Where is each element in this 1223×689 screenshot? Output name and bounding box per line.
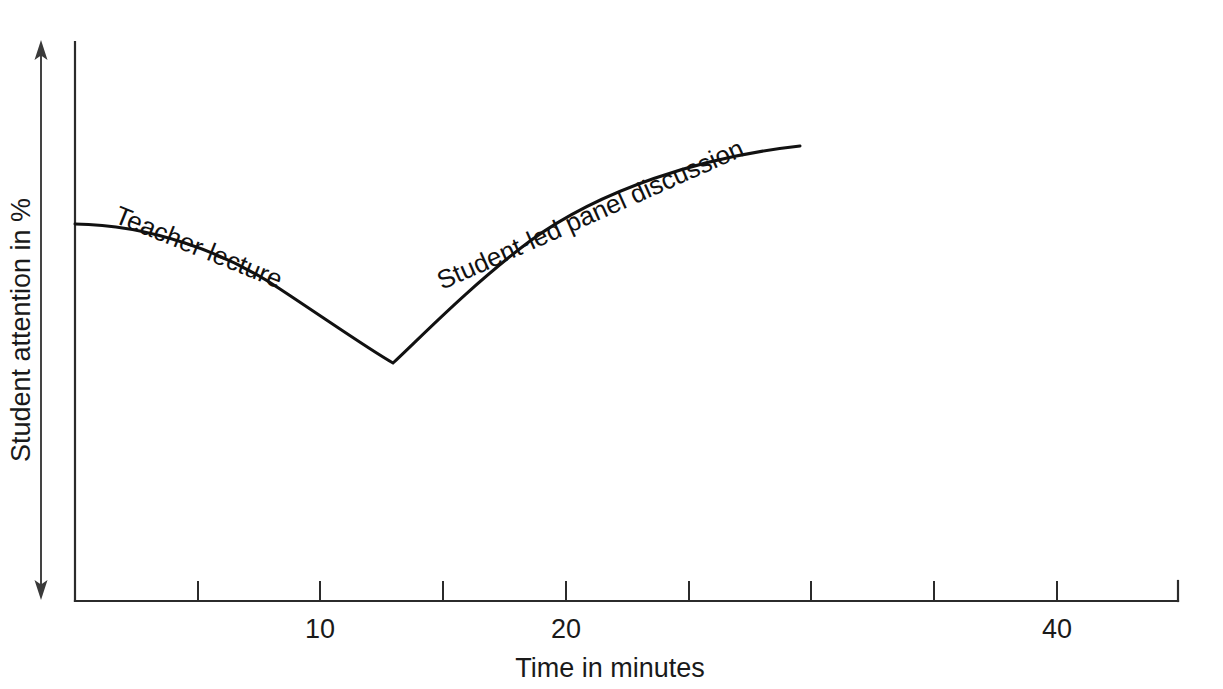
- chart-background: [0, 0, 1223, 689]
- x-axis-title: Time in minutes: [515, 653, 705, 683]
- x-tick-label-10: 10: [305, 614, 335, 644]
- y-axis-title: Student attention in %: [6, 198, 36, 462]
- chart-canvas: Student attention in % 10 20 40 Time in …: [0, 0, 1223, 689]
- attention-chart-figure: Student attention in % 10 20 40 Time in …: [0, 0, 1223, 689]
- x-tick-label-20: 20: [551, 614, 581, 644]
- x-tick-label-40: 40: [1042, 614, 1072, 644]
